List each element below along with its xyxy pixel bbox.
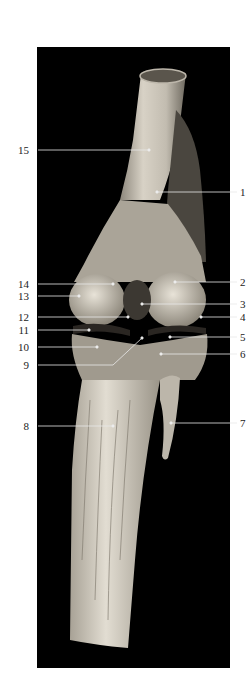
anatomical-figure: 15 1 14 13 2 3 12 4 11 5 10 6 9 7 8 <box>0 0 250 696</box>
label-3: 3 <box>240 298 246 310</box>
label-12: 12 <box>3 311 29 323</box>
medial-condyle <box>69 274 125 326</box>
fibula <box>160 375 180 459</box>
knee-specimen-illustration <box>0 0 250 696</box>
label-5: 5 <box>240 331 246 343</box>
label-9: 9 <box>3 359 29 371</box>
label-1: 1 <box>240 186 246 198</box>
label-8: 8 <box>3 420 29 432</box>
tibial-plateau <box>72 334 208 380</box>
femur-cut-end <box>140 69 186 83</box>
label-7: 7 <box>240 417 246 429</box>
label-13: 13 <box>3 290 29 302</box>
label-2: 2 <box>240 276 246 288</box>
label-4: 4 <box>240 311 246 323</box>
label-15: 15 <box>3 144 29 156</box>
lateral-condyle <box>146 272 206 328</box>
label-14: 14 <box>3 278 29 290</box>
label-10: 10 <box>3 341 29 353</box>
label-11: 11 <box>3 324 29 336</box>
label-6: 6 <box>240 348 246 360</box>
